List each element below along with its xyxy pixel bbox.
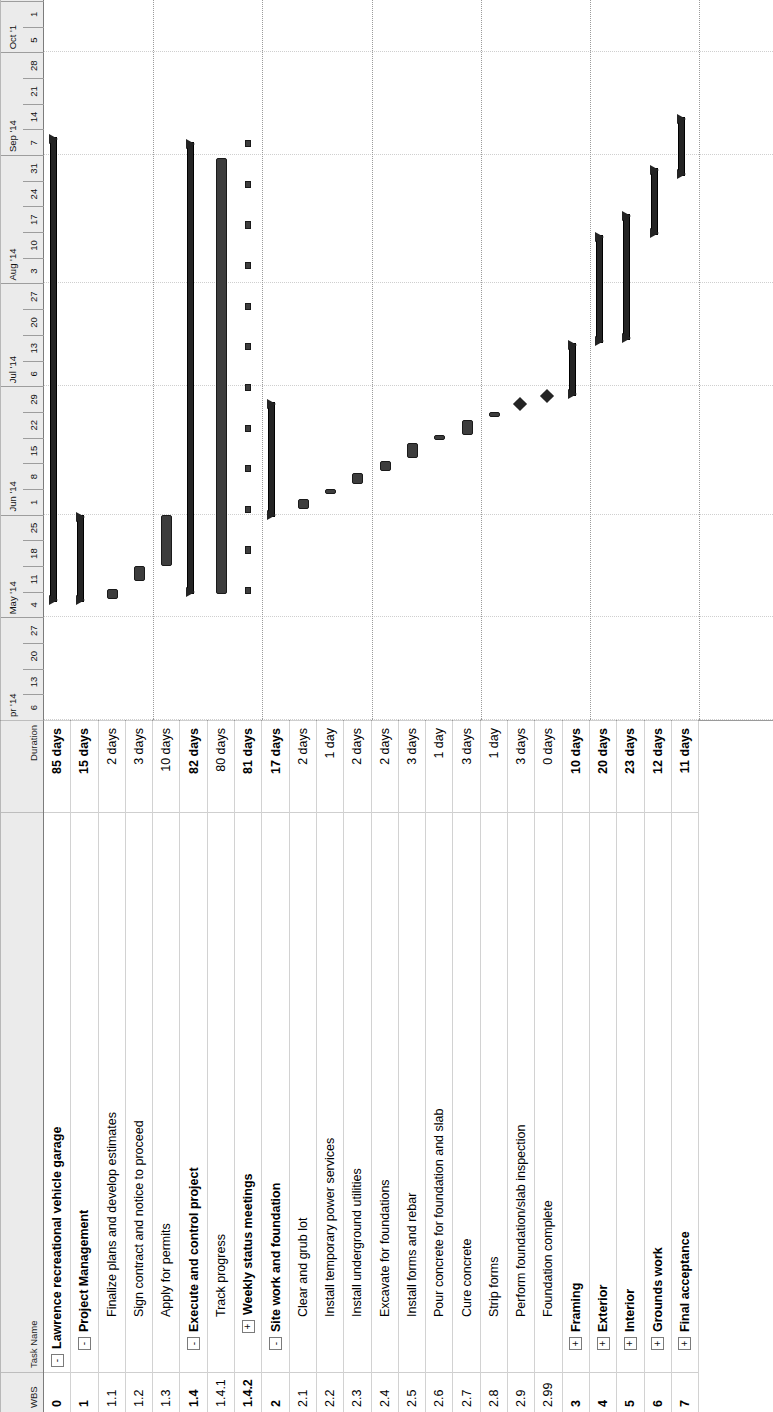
table-row[interactable]: 1.4.2+Weekly status meetings81 days <box>235 721 262 1412</box>
gantt-summary-bar[interactable] <box>596 235 603 343</box>
cell-task-name[interactable]: Excavate for foundations <box>372 812 398 1372</box>
gantt-summary-bar[interactable] <box>268 402 275 518</box>
cell-task-name[interactable]: Clear and grub lot <box>290 812 316 1372</box>
table-row[interactable]: 4+Exterior20 days <box>590 721 617 1412</box>
table-row[interactable]: 7+Final acceptance11 days <box>672 721 699 1412</box>
table-row[interactable]: 1-Project Management15 days <box>71 721 98 1412</box>
gantt-task-bar[interactable] <box>161 515 172 566</box>
gantt-summary-bar[interactable] <box>678 117 685 176</box>
table-row[interactable]: 5+Interior23 days <box>617 721 644 1412</box>
cell-task-name[interactable]: -Execute and control project <box>180 812 206 1372</box>
table-row[interactable]: 2.6Pour concrete for foundation and slab… <box>426 721 453 1412</box>
gantt-row[interactable] <box>44 0 71 720</box>
table-row[interactable]: 2.4Excavate for foundations2 days <box>372 721 399 1412</box>
gantt-row[interactable] <box>153 0 180 720</box>
gantt-row[interactable] <box>208 0 235 720</box>
gantt-recurring-occurrence-bar[interactable] <box>245 425 251 432</box>
gantt-task-bar[interactable] <box>107 589 118 599</box>
gantt-summary-bar[interactable] <box>651 168 658 235</box>
gantt-task-bar[interactable] <box>352 474 363 484</box>
gantt-recurring-occurrence-bar[interactable] <box>245 465 251 472</box>
expand-icon[interactable]: + <box>569 1337 582 1350</box>
gantt-recurring-occurrence-bar[interactable] <box>245 262 251 269</box>
gantt-row[interactable] <box>508 0 535 720</box>
column-header-task-name[interactable]: Task Name <box>1 812 43 1372</box>
gantt-summary-bar[interactable] <box>50 137 57 602</box>
table-row[interactable]: 1.4-Execute and control project82 days <box>180 721 207 1412</box>
table-row[interactable]: 2.99Foundation complete0 days <box>535 721 562 1412</box>
gantt-task-bar[interactable] <box>325 489 336 494</box>
gantt-milestone-marker[interactable] <box>513 397 527 411</box>
table-row[interactable]: 2.7Cure concrete3 days <box>453 721 480 1412</box>
table-row[interactable]: 2.5Install forms and rebar3 days <box>399 721 426 1412</box>
gantt-row[interactable] <box>535 0 562 720</box>
cell-task-name[interactable]: +Grounds work <box>645 812 671 1372</box>
table-row[interactable]: 2.2Install temporary power services1 day <box>317 721 344 1412</box>
table-row[interactable]: 1.1Finalize plans and develop estimates2… <box>99 721 126 1412</box>
gantt-task-bar[interactable] <box>298 499 309 509</box>
expand-icon[interactable]: + <box>678 1337 691 1350</box>
cell-task-name[interactable]: Install underground utilities <box>344 812 370 1372</box>
cell-task-name[interactable]: Strip forms <box>481 812 507 1372</box>
table-row[interactable]: 0-Lawrence recreational vehicle garage85… <box>44 721 71 1412</box>
gantt-row[interactable] <box>563 0 590 720</box>
gantt-row[interactable] <box>344 0 371 720</box>
expand-icon[interactable]: + <box>242 1320 255 1333</box>
gantt-row[interactable] <box>645 0 672 720</box>
column-header-duration[interactable]: Duration <box>1 720 43 812</box>
gantt-recurring-occurrence-bar[interactable] <box>245 303 251 310</box>
table-row[interactable]: 6+Grounds work12 days <box>645 721 672 1412</box>
gantt-recurring-occurrence-bar[interactable] <box>245 587 251 594</box>
gantt-summary-bar[interactable] <box>623 214 630 340</box>
expand-icon[interactable]: + <box>597 1337 610 1350</box>
table-row[interactable]: 1.2Sign contract and notice to proceed3 … <box>126 721 153 1412</box>
cell-task-name[interactable]: +Final acceptance <box>672 812 698 1372</box>
column-header-wbs[interactable]: WBS <box>1 1372 43 1412</box>
gantt-recurring-occurrence-bar[interactable] <box>245 140 251 147</box>
cell-task-name[interactable]: Finalize plans and develop estimates <box>99 812 125 1372</box>
gantt-task-bar[interactable] <box>407 443 418 458</box>
cell-task-name[interactable]: Apply for permits <box>153 812 179 1372</box>
table-row[interactable]: 1.4.1Track progress80 days <box>208 721 235 1412</box>
table-row[interactable]: 2.1Clear and grub lot2 days <box>290 721 317 1412</box>
cell-task-name[interactable]: +Framing <box>563 812 589 1372</box>
gantt-row[interactable] <box>399 0 426 720</box>
gantt-recurring-occurrence-bar[interactable] <box>245 181 251 188</box>
cell-task-name[interactable]: +Exterior <box>590 812 616 1372</box>
cell-task-name[interactable]: Cure concrete <box>453 812 479 1372</box>
collapse-icon[interactable]: - <box>51 1354 64 1367</box>
gantt-row[interactable] <box>71 0 98 720</box>
cell-task-name[interactable]: Foundation complete <box>535 812 561 1372</box>
gantt-row[interactable] <box>672 0 699 720</box>
gantt-task-bar[interactable] <box>216 158 227 595</box>
gantt-task-bar[interactable] <box>462 420 473 435</box>
cell-task-name[interactable]: Sign contract and notice to proceed <box>126 812 152 1372</box>
cell-task-name[interactable]: -Project Management <box>71 812 97 1372</box>
table-row[interactable]: 2.8Strip forms1 day <box>481 721 508 1412</box>
gantt-task-bar[interactable] <box>134 566 145 581</box>
cell-task-name[interactable]: Track progress <box>208 812 234 1372</box>
cell-task-name[interactable]: Install forms and rebar <box>399 812 425 1372</box>
gantt-row[interactable] <box>454 0 481 720</box>
gantt-row[interactable] <box>590 0 617 720</box>
gantt-row[interactable] <box>235 0 262 720</box>
gantt-row[interactable] <box>126 0 153 720</box>
gantt-recurring-occurrence-bar[interactable] <box>245 221 251 228</box>
gantt-row[interactable] <box>617 0 644 720</box>
expand-icon[interactable]: + <box>624 1337 637 1350</box>
table-row[interactable]: 3+Framing10 days <box>563 721 590 1412</box>
gantt-recurring-occurrence-bar[interactable] <box>245 384 251 391</box>
gantt-row[interactable] <box>99 0 126 720</box>
table-row[interactable]: 1.3Apply for permits10 days <box>153 721 180 1412</box>
gantt-summary-bar[interactable] <box>569 343 576 397</box>
gantt-bars-area[interactable] <box>44 0 773 720</box>
gantt-recurring-occurrence-bar[interactable] <box>245 343 251 350</box>
collapse-icon[interactable]: - <box>269 1337 282 1350</box>
cell-task-name[interactable]: -Site work and foundation <box>262 812 288 1372</box>
gantt-recurring-occurrence-bar[interactable] <box>245 506 251 513</box>
table-row[interactable]: 2.9Perform foundation/slab inspection3 d… <box>508 721 535 1412</box>
gantt-summary-bar[interactable] <box>77 515 84 602</box>
gantt-row[interactable] <box>372 0 399 720</box>
cell-task-name[interactable]: Pour concrete for foundation and slab <box>426 812 452 1372</box>
collapse-icon[interactable]: - <box>78 1337 91 1350</box>
